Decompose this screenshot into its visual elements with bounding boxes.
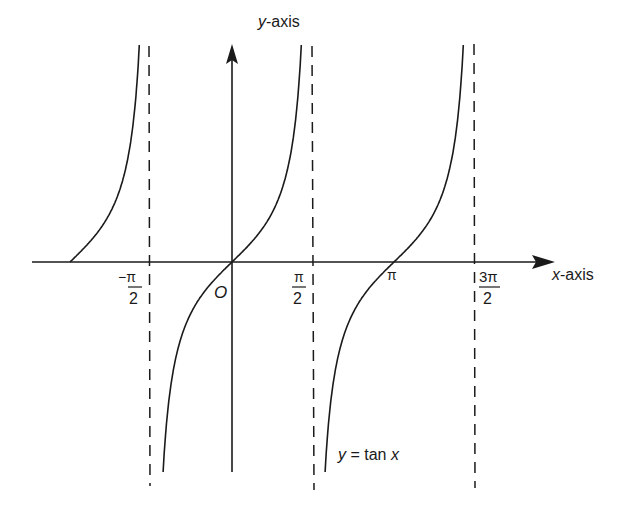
origin-label: O xyxy=(214,283,227,302)
tick-neg-half-pi-num: −π xyxy=(118,269,136,285)
tangent-graph: y-axis x-axis O −π 2 π 2 π 3π 2 y = tan … xyxy=(0,0,635,516)
asymptote-half-pi xyxy=(312,46,314,490)
tick-three-half-pi-den: 2 xyxy=(483,290,492,307)
tan-branch-left xyxy=(70,45,139,262)
y-axis-label: y-axis xyxy=(257,13,300,30)
tick-neg-half-pi-den: 2 xyxy=(129,290,138,307)
x-axis-label-text: -axis xyxy=(560,266,594,283)
tick-half-pi-num: π xyxy=(294,269,304,285)
tick-half-pi-den: 2 xyxy=(293,290,302,307)
tick-pi: π xyxy=(387,267,397,283)
y-axis-label-text: -axis xyxy=(266,13,300,30)
curve-annotation-eq: = tan xyxy=(346,446,391,463)
curve-annotation: y = tan x xyxy=(337,446,400,463)
asymptote-three-half-pi xyxy=(474,44,475,488)
tick-three-half-pi-num: 3π xyxy=(479,268,498,285)
curve-annotation-x: x xyxy=(390,446,400,463)
x-axis-label: x-axis xyxy=(551,266,594,283)
asymptote-neg-half-pi xyxy=(149,46,150,486)
tan-branch-right xyxy=(325,45,463,472)
